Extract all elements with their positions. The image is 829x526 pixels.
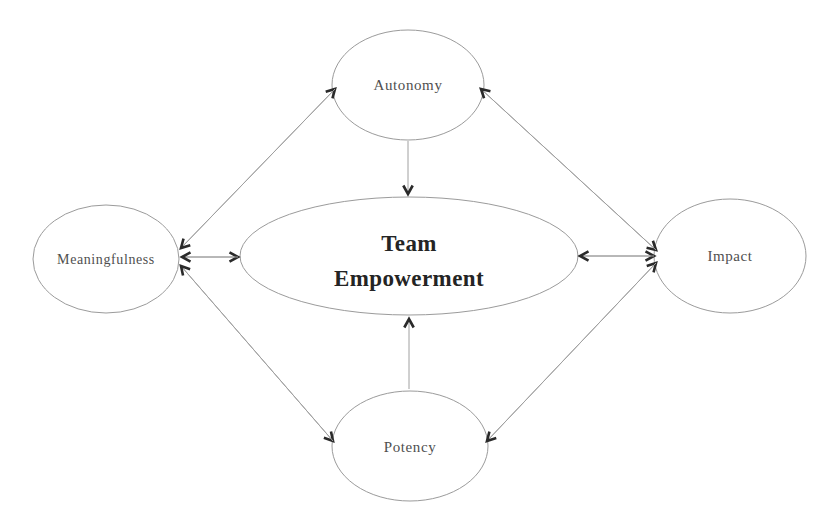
- node-team-empowerment-label-line1: Team: [381, 231, 437, 256]
- node-potency-label: Potency: [384, 439, 437, 455]
- team-empowerment-diagram: Autonomy Meaningfulness Impact Potency T…: [0, 0, 829, 526]
- diagram-svg: Autonomy Meaningfulness Impact Potency T…: [0, 0, 829, 526]
- node-team-empowerment-label-line2: Empowerment: [334, 266, 484, 291]
- node-impact-label: Impact: [707, 248, 752, 264]
- node-meaningfulness-label: Meaningfulness: [57, 252, 155, 267]
- node-autonomy-label: Autonomy: [374, 77, 443, 93]
- node-team-empowerment: [240, 197, 578, 315]
